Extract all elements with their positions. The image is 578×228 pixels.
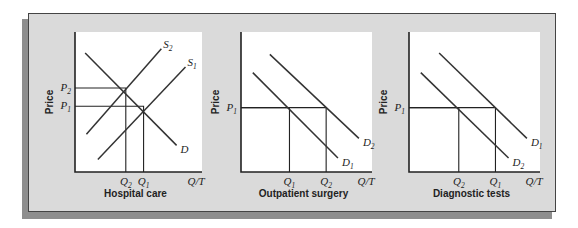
chart-title: Diagnostic tests <box>433 188 511 199</box>
figure: DS2S1P2P1Q2Q1Q/TPriceHospital careD1D2P1… <box>0 0 578 228</box>
panel-3: D1D2P1Q2Q1Q/TPriceDiagnostic tests <box>378 32 543 199</box>
x-axis-label: Q/T <box>187 175 205 187</box>
chart-title: Hospital care <box>104 188 167 199</box>
panel-1: DS2S1P2P1Q2Q1Q/TPriceHospital care <box>44 32 205 199</box>
curve-label-d: D <box>180 143 189 155</box>
y-tick-label: P1 <box>226 101 237 116</box>
plot-area <box>409 32 540 172</box>
chart-title: Outpatient surgery <box>259 188 349 199</box>
x-axis-label: Q/T <box>525 175 543 187</box>
y-axis-label: Price <box>44 89 55 114</box>
panel-2: D1D2P1Q1Q2Q/TPriceOutpatient surgery <box>210 32 375 199</box>
y-tick-label: P2 <box>60 81 72 96</box>
plot-area <box>241 32 372 172</box>
y-axis-label: Price <box>378 89 389 114</box>
x-axis-label: Q/T <box>357 175 375 187</box>
y-tick-label: P1 <box>60 99 71 114</box>
y-tick-label: P1 <box>394 101 405 116</box>
y-axis-label: Price <box>210 89 221 114</box>
